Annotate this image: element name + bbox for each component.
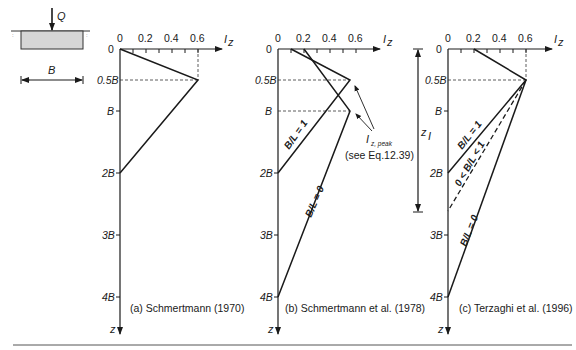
svg-text:I: I xyxy=(554,33,557,45)
label-bl-0: B/L = 0 xyxy=(303,184,327,219)
panel-a: 0 0.2 0.4 0.6 I z 0 0.5B B 2B 3B 4B z (a… xyxy=(97,32,244,335)
svg-text:0.5B: 0.5B xyxy=(425,74,447,86)
panel-caption: (b) Schmertmann et al. (1978) xyxy=(285,302,425,314)
svg-text:4B: 4B xyxy=(102,291,115,303)
svg-text:0.2: 0.2 xyxy=(296,32,311,44)
svg-text:0.5B: 0.5B xyxy=(255,74,277,86)
svg-text:0: 0 xyxy=(108,43,114,55)
svg-text:I: I xyxy=(366,133,369,145)
svg-text:I: I xyxy=(224,33,227,45)
svg-text:0.4: 0.4 xyxy=(164,32,179,44)
curve-bl-0 xyxy=(448,80,526,297)
panel-c: 0 0.2 0.4 0.6 I z 0 0.5B B 2B 3B 4B z B/… xyxy=(413,32,573,335)
svg-text::: : xyxy=(12,32,14,38)
svg-text:3B: 3B xyxy=(102,229,115,241)
peak-arrow-icon xyxy=(356,114,372,131)
svg-text:z: z xyxy=(267,323,274,335)
footing-sketch: : : Q B xyxy=(11,8,90,84)
panel-caption: (a) Schmertmann (1970) xyxy=(130,302,244,314)
svg-text:0: 0 xyxy=(266,43,272,55)
panel-caption: (c) Terzaghi et al. (1996) xyxy=(459,302,573,314)
svg-text:2B: 2B xyxy=(101,167,115,179)
svg-text:0: 0 xyxy=(275,32,281,44)
svg-text:B: B xyxy=(107,105,114,117)
svg-text:0.6: 0.6 xyxy=(518,32,533,44)
equation-reference: (see Eq.12.39) xyxy=(345,149,414,161)
svg-text:0: 0 xyxy=(117,32,123,44)
svg-text:4B: 4B xyxy=(260,291,273,303)
label-bl-1: B/L = 1 xyxy=(282,118,310,152)
svg-text:z: z xyxy=(386,36,393,48)
svg-text::: : xyxy=(86,32,88,38)
svg-text:3B: 3B xyxy=(260,229,273,241)
svg-text:I: I xyxy=(428,130,431,142)
svg-text:0.4: 0.4 xyxy=(322,32,337,44)
x-ticks xyxy=(116,49,198,297)
svg-text:0.2: 0.2 xyxy=(466,32,481,44)
label-bl-0: B/L = 0 xyxy=(458,213,481,248)
svg-text:z: z xyxy=(557,36,564,48)
svg-text:I: I xyxy=(383,33,386,45)
svg-text:0.4: 0.4 xyxy=(492,32,507,44)
load-label: Q xyxy=(57,10,66,22)
footing-block xyxy=(21,31,83,49)
svg-text:4B: 4B xyxy=(430,291,443,303)
svg-text:2B: 2B xyxy=(429,167,443,179)
svg-text:z, peak: z, peak xyxy=(370,140,393,148)
curve-bl-0 xyxy=(278,49,350,297)
svg-text:z: z xyxy=(109,323,116,335)
svg-text:3B: 3B xyxy=(430,229,443,241)
svg-text:0.6: 0.6 xyxy=(190,32,205,44)
width-label: B xyxy=(48,64,55,76)
svg-text:0.2: 0.2 xyxy=(138,32,153,44)
panel-b: 0 0.2 0.4 0.6 I z 0 0.5B B 2B 3B 4B z B/… xyxy=(255,32,425,335)
svg-text:0.5B: 0.5B xyxy=(97,74,119,86)
svg-text:2B: 2B xyxy=(259,167,273,179)
svg-text:0.6: 0.6 xyxy=(348,32,363,44)
svg-text:0: 0 xyxy=(445,32,451,44)
svg-text:z: z xyxy=(437,323,444,335)
influence-depth-label: z xyxy=(420,126,427,138)
svg-text:B: B xyxy=(265,105,272,117)
svg-text:0: 0 xyxy=(436,43,442,55)
svg-text:B: B xyxy=(435,105,442,117)
settlement-influence-diagram: : : Q B 0 0.2 0.4 0.6 I z 0 0.5B B 2B 3B… xyxy=(0,0,576,350)
iz-curve xyxy=(120,49,198,173)
svg-text:z: z xyxy=(227,36,234,48)
